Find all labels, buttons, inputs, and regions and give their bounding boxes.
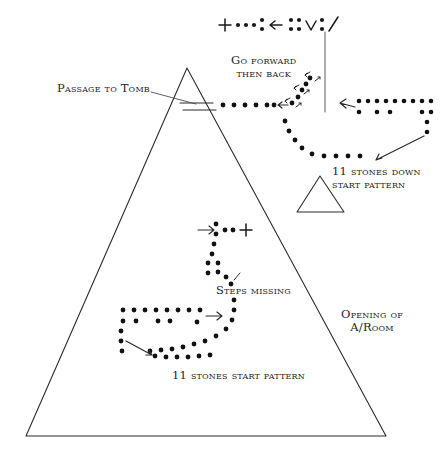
middle-descending-stone-trail [206,242,234,287]
middle-right-arrow-icon [198,226,214,234]
glyph-dot-pair-icon [297,18,301,31]
upper-right-start-pattern [340,99,433,135]
symbol-row [219,17,338,31]
passage-leader-line [151,92,196,104]
glyph-dot-pair-icon [289,18,293,31]
lower-left-start-pattern [119,308,203,354]
glyph-dot-icon [244,23,248,27]
diagram-canvas: Passage to Tomb Go forward then back 11 … [0,0,446,465]
lower-left-right-arrow-icon [206,312,222,320]
glyph-left-arrow-icon [270,21,282,29]
middle-stone-run [214,222,236,237]
lower-left-trail [153,353,213,360]
label-opening-of-aroom: Opening of A/Room [341,308,403,334]
glyph-dot-icon [252,23,256,27]
middle-plus-icon [240,224,252,236]
passage-marks [180,103,216,110]
label-steps-missing: Steps missing [216,284,291,297]
upper-right-left-arrow-icon [340,99,355,108]
upper-horizontal-stone-run [221,103,277,108]
glyph-plus-icon [219,19,231,31]
glyph-slash-icon [329,17,338,31]
glyph-dot-pair-icon [320,18,324,31]
middle-tick-mark [234,273,240,280]
glyph-dot-icon [236,23,240,27]
diagram-svg [0,0,446,465]
start-pattern-pointer-arrow-icon [376,136,424,160]
label-go-forward-then-back: Go forward then back [231,54,296,80]
zigzag-arrow-pair-icon [305,72,320,81]
upper-descending-stone-trail [283,119,363,159]
glyph-dot-pair-icon [260,18,264,31]
lower-left-pointer-arrow-icon [126,341,152,355]
glyph-vee-icon [306,21,316,30]
middle-trail-continuation [148,298,237,354]
label-eleven-stones-down: 11 stones down start pattern [332,165,421,191]
label-eleven-stones-start: 11 stones start pattern [172,369,305,382]
label-passage-to-tomb: Passage to Tomb [57,82,150,95]
